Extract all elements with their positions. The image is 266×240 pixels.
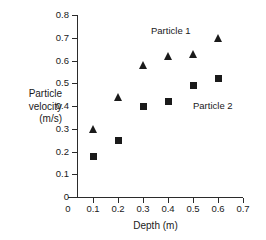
data-point-triangle [89, 125, 97, 133]
y-axis-tick [72, 129, 77, 130]
x-axis-tick-label: 0.7 [228, 204, 258, 214]
data-point-square [190, 82, 197, 89]
y-axis-tick [72, 15, 77, 16]
y-axis-tick-label: 0.7 [40, 33, 69, 43]
y-axis-tick-label: 0.1 [40, 169, 69, 179]
y-axis-tick [72, 83, 77, 84]
data-point-triangle [114, 93, 122, 101]
scatter-chart-figure: 00.10.20.30.40.50.60.70.800.10.20.30.40.… [0, 0, 266, 240]
y-axis-tick-label: 0.5 [40, 78, 69, 88]
y-axis-tick [72, 38, 77, 39]
data-point-square [140, 103, 147, 110]
y-axis-tick-label: 0.2 [40, 147, 69, 157]
y-axis-title-line-1: Particle [0, 88, 62, 101]
series-annotation-label: Particle 1 [151, 25, 191, 36]
x-axis-line [68, 197, 243, 198]
y-axis-tick-label: 0.8 [40, 10, 69, 20]
data-point-square [115, 137, 122, 144]
y-axis-title: Particle velocity (m/s) [0, 88, 62, 126]
y-axis-tick [72, 174, 77, 175]
series-annotation-label: Particle 2 [193, 100, 233, 111]
y-axis-line [77, 15, 78, 198]
y-axis-tick [72, 61, 77, 62]
y-axis-tick [72, 106, 77, 107]
data-point-triangle [139, 61, 147, 69]
y-axis-tick-label: 0.6 [40, 56, 69, 66]
y-axis-tick [72, 197, 77, 198]
y-axis-tick [72, 152, 77, 153]
data-point-triangle [214, 34, 222, 42]
data-point-square [215, 75, 222, 82]
data-point-triangle [189, 50, 197, 58]
data-point-square [90, 153, 97, 160]
y-axis-title-line-3: (m/s) [0, 113, 62, 126]
x-axis-title: Depth (m) [68, 220, 243, 231]
data-point-triangle [164, 52, 172, 60]
data-point-square [165, 98, 172, 105]
y-axis-title-line-2: velocity [0, 101, 62, 114]
y-axis-tick-label: 0 [40, 192, 69, 202]
